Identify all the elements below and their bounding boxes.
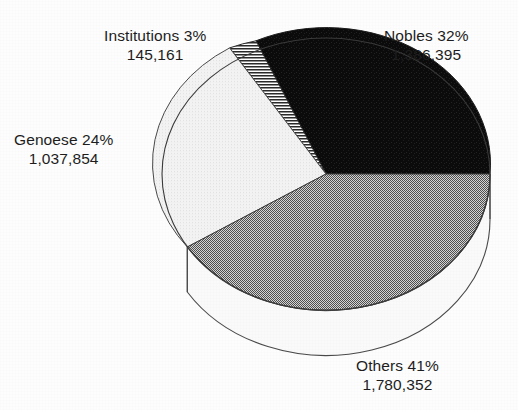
- pie-chart-figure: Nobles 32% 1,386,395 Institutions 3% 145…: [0, 0, 518, 410]
- slice-label-institutions-value: 145,161: [104, 45, 206, 64]
- slice-label-genoese: Genoese 24% 1,037,854: [14, 130, 113, 168]
- slice-label-genoese-name: Genoese 24%: [14, 130, 113, 149]
- slice-label-others: Others 41% 1,780,352: [356, 356, 439, 394]
- slice-label-nobles: Nobles 32% 1,386,395: [384, 26, 469, 64]
- slice-label-nobles-name: Nobles 32%: [384, 26, 469, 45]
- slice-label-nobles-value: 1,386,395: [384, 45, 469, 64]
- slice-label-institutions: Institutions 3% 145,161: [104, 26, 206, 64]
- slice-label-others-name: Others 41%: [356, 356, 439, 375]
- slice-label-genoese-value: 1,037,854: [14, 149, 113, 168]
- slice-label-others-value: 1,780,352: [356, 375, 439, 394]
- slice-label-institutions-name: Institutions 3%: [104, 26, 206, 45]
